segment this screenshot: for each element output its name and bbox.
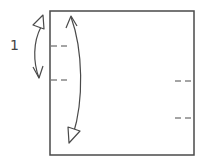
short-fold-arrow-icon [33,15,44,78]
long-fold-arrow-icon [66,16,81,143]
fold-diagram: 1 [0,0,207,159]
right-crease-marks [175,81,194,118]
step-number-label: 1 [10,38,19,52]
left-crease-marks [51,46,69,80]
diagram-svg [0,0,207,159]
